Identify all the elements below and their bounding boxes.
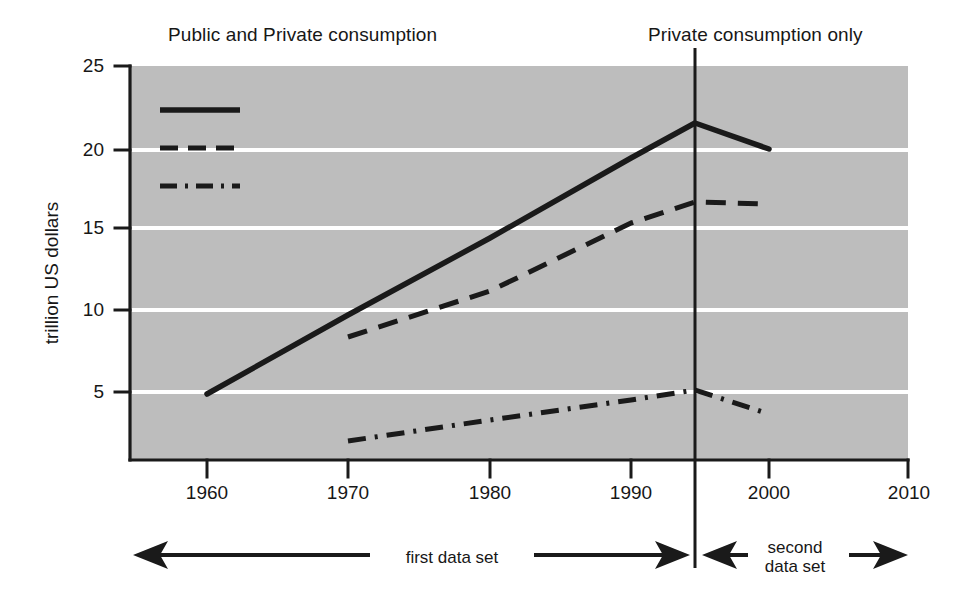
- plot-background: [130, 66, 908, 460]
- x-axis-ticks: [207, 460, 908, 477]
- chart-figure: Public and Private consumption Private c…: [0, 0, 972, 602]
- chart-canvas: [0, 0, 972, 602]
- y-axis-ticks: [115, 66, 130, 392]
